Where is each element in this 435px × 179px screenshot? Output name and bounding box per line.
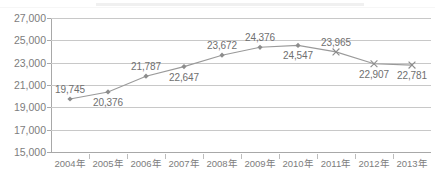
data-point-label: 22,907 <box>359 69 389 80</box>
data-point-label: 23,965 <box>321 37 351 48</box>
data-point-marker-diamond <box>105 89 110 94</box>
data-point-label: 24,376 <box>245 32 275 43</box>
data-point-marker-diamond <box>181 64 186 69</box>
data-point-label: 22,647 <box>169 72 199 83</box>
data-point-marker-diamond <box>257 45 262 50</box>
line-chart: 27,00025,00023,00021,00019,00017,00015,0… <box>0 0 435 179</box>
data-point-label: 24,547 <box>283 50 313 61</box>
data-point-label: 20,376 <box>93 97 123 108</box>
data-point-marker-diamond <box>295 43 300 48</box>
data-point-label: 19,745 <box>55 84 85 95</box>
data-point-marker-diamond <box>143 74 148 79</box>
data-point-marker-diamond <box>67 96 72 101</box>
data-point-label: 21,787 <box>131 61 161 72</box>
data-point-label: 23,672 <box>207 40 237 51</box>
data-point-marker-diamond <box>219 53 224 58</box>
data-point-label: 22,781 <box>397 70 427 81</box>
